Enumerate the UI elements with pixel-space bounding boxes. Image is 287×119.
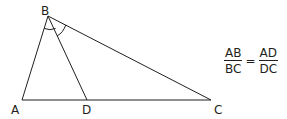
segment-ab (22, 16, 48, 100)
equals-sign: = (245, 55, 255, 67)
fraction-ab-bc: AB BC (224, 47, 242, 75)
segment-bc (48, 16, 211, 100)
point-label-c: C (214, 104, 222, 116)
point-label-d: D (82, 104, 91, 116)
angle-mark-dbc (57, 25, 66, 36)
angle-mark-abd (44, 28, 55, 29)
point-label-a: A (11, 104, 19, 116)
numerator-ad: AD (259, 47, 278, 60)
fraction-ad-dc: AD DC (259, 47, 279, 75)
denominator-dc: DC (259, 61, 279, 75)
denominator-bc: BC (224, 61, 242, 75)
ratio-formula: AB BC = AD DC (224, 47, 278, 75)
point-label-b: B (41, 5, 49, 17)
numerator-ab: AB (224, 47, 242, 60)
